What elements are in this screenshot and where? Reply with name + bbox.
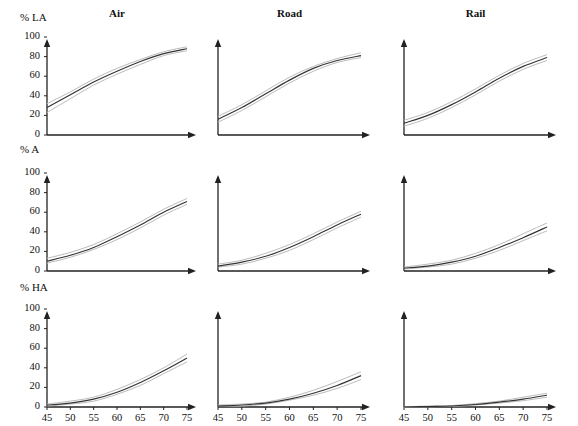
ci-upper-curve <box>404 55 547 121</box>
y-axis-arrow <box>215 39 221 47</box>
ci-upper-curve <box>47 354 187 404</box>
fit-curve <box>218 214 361 266</box>
fit-curve <box>218 56 361 120</box>
x-axis-arrow <box>362 132 370 138</box>
x-axis-arrow <box>362 404 370 410</box>
ci-lower-curve <box>47 362 187 406</box>
ci-lower-curve <box>218 58 361 123</box>
panel-ha-air <box>44 309 196 410</box>
x-axis-arrow <box>548 404 556 410</box>
ci-lower-curve <box>218 217 361 267</box>
ci-upper-curve <box>218 211 361 264</box>
panel-a-rail <box>401 175 556 274</box>
plot-canvas <box>0 0 578 426</box>
ci-lower-curve <box>47 51 187 113</box>
ci-lower-curve <box>218 380 361 407</box>
y-axis-arrow <box>44 175 50 183</box>
y-axis-arrow <box>44 311 50 319</box>
panel-ha-rail <box>401 311 556 410</box>
x-axis-arrow <box>188 404 196 410</box>
dose-response-figure: AirRoadRail% LA% A% HA020406080100020406… <box>0 0 578 426</box>
y-axis-arrow <box>215 175 221 183</box>
y-axis-arrow <box>401 39 407 47</box>
panel-a-air <box>44 173 196 274</box>
x-axis-arrow <box>548 268 556 274</box>
ci-upper-curve <box>47 198 187 258</box>
x-axis-arrow <box>188 132 196 138</box>
y-axis-arrow <box>401 175 407 183</box>
ci-upper-curve <box>404 223 547 267</box>
fit-curve <box>47 358 187 405</box>
x-axis-arrow <box>188 268 196 274</box>
x-axis-arrow <box>548 132 556 138</box>
y-axis-arrow <box>44 39 50 47</box>
panel-la-road <box>215 39 370 138</box>
panel-ha-road <box>215 311 370 410</box>
y-axis-arrow <box>401 311 407 319</box>
fit-curve <box>47 201 187 261</box>
y-axis-arrow <box>215 311 221 319</box>
fit-curve <box>47 49 187 108</box>
panel-la-air <box>44 37 196 138</box>
x-axis-arrow <box>362 268 370 274</box>
panel-a-road <box>215 175 370 274</box>
panel-la-rail <box>401 39 556 138</box>
